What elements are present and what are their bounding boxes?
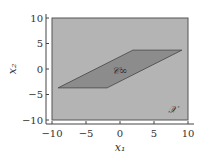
x-tick-label: 0 — [117, 128, 123, 139]
y-ticks: −10−50510 — [22, 13, 49, 126]
region-c-infinity-label: 𝒞∞ — [112, 65, 127, 76]
y-tick-label: 10 — [30, 13, 43, 24]
y-tick-label: 5 — [37, 38, 43, 49]
y-tick-label: 0 — [37, 64, 43, 75]
x-tick-label: 10 — [182, 128, 195, 139]
y-tick-label: −10 — [22, 115, 43, 126]
x-tick-label: 5 — [151, 128, 157, 139]
y-axis-label: x₂ — [6, 64, 19, 75]
y-tick-label: −5 — [28, 89, 43, 100]
x-axis-label: x₁ — [115, 141, 126, 154]
x-tick-label: −10 — [41, 128, 62, 139]
x-tick-label: −5 — [79, 128, 94, 139]
chart: 𝒞∞ 𝒳 −10−50510 −10−50510 x₁ x₂ — [0, 0, 204, 162]
